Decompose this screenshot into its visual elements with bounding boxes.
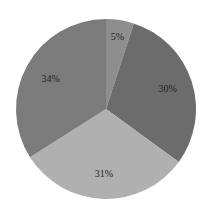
- slice-label: 34%: [42, 73, 60, 84]
- pie-chart: 5%30%31%34%: [0, 0, 208, 216]
- slice-label: 31%: [95, 168, 113, 179]
- slice-label: 5%: [111, 31, 124, 42]
- slice-label: 30%: [158, 83, 176, 94]
